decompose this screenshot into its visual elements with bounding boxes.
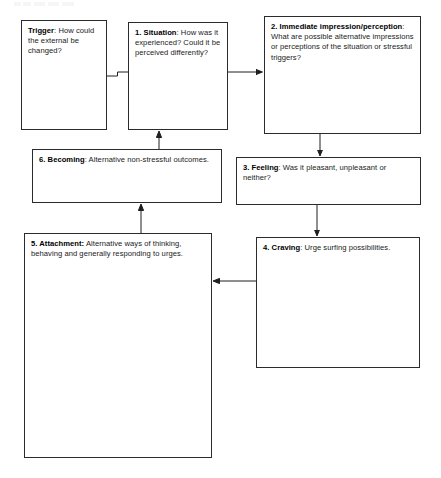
node-trigger[interactable]: Trigger: How could the external be chang… <box>21 20 107 130</box>
diagram-canvas: Trigger: How could the external be chang… <box>0 0 441 478</box>
node-immediate-impression-text: 2. Immediate impression/perception: What… <box>271 22 414 63</box>
node-immediate-impression-label: 2. Immediate impression/perception <box>271 22 402 31</box>
node-feeling-text: 3. Feeling: Was it pleasant, unpleasant … <box>243 163 414 183</box>
node-feeling-label: 3. Feeling <box>243 163 279 172</box>
node-becoming-body: Alternative non-stressful outcomes. <box>89 155 209 164</box>
node-immediate-impression-body: What are possible alternative impression… <box>271 32 414 61</box>
node-becoming[interactable]: 6. Becoming: Alternative non-stressful o… <box>32 149 222 203</box>
node-trigger-label: Trigger <box>28 26 54 35</box>
node-becoming-label: 6. Becoming <box>39 155 85 164</box>
node-feeling[interactable]: 3. Feeling: Was it pleasant, unpleasant … <box>236 157 421 205</box>
node-becoming-text: 6. Becoming: Alternative non-stressful o… <box>39 155 215 165</box>
node-immediate-impression-separator: : <box>402 22 404 31</box>
node-attachment-text: 5. Attachment: Alternative ways of think… <box>31 239 205 259</box>
node-situation[interactable]: 1. Situation: How was it experienced? Co… <box>128 22 228 130</box>
node-situation-label: 1. Situation <box>135 28 177 37</box>
scan-header-remnant <box>14 0 78 9</box>
node-situation-text: 1. Situation: How was it experienced? Co… <box>135 28 221 59</box>
node-craving-body: Urge surfing possibilities. <box>305 243 391 252</box>
node-immediate-impression[interactable]: 2. Immediate impression/perception: What… <box>264 16 421 134</box>
node-attachment-label: 5. Attachment: <box>31 239 84 248</box>
connector-trigger-to-situation <box>107 72 128 76</box>
node-attachment[interactable]: 5. Attachment: Alternative ways of think… <box>24 233 212 458</box>
node-craving[interactable]: 4. Craving: Urge surfing possibilities. <box>256 237 420 368</box>
node-craving-label: 4. Craving <box>263 243 300 252</box>
node-craving-text: 4. Craving: Urge surfing possibilities. <box>263 243 413 253</box>
node-trigger-text: Trigger: How could the external be chang… <box>28 26 100 57</box>
